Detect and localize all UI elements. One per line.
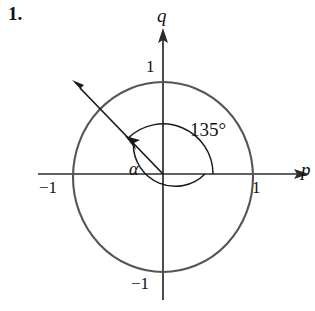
angle-measure-label: 135° — [190, 120, 226, 139]
axis-label-vertical: q — [157, 6, 167, 25]
figure-root: 1. q p 1 −1 −1 1 135° α — [0, 0, 315, 311]
tick-label-x-negative-one: −1 — [39, 179, 57, 196]
terminal-ray-line — [80, 88, 163, 174]
unit-circle-diagram — [0, 0, 315, 311]
alpha-angle-arc — [133, 144, 205, 186]
tick-label-y-negative-one: −1 — [131, 275, 149, 292]
tick-label-y-positive-one: 1 — [146, 58, 155, 75]
vertical-axis — [158, 28, 168, 300]
horizontal-axis — [38, 169, 309, 179]
tick-label-x-positive-one: 1 — [252, 179, 261, 196]
angle-symbol-label: α — [129, 160, 138, 178]
axis-label-horizontal: p — [301, 160, 311, 179]
